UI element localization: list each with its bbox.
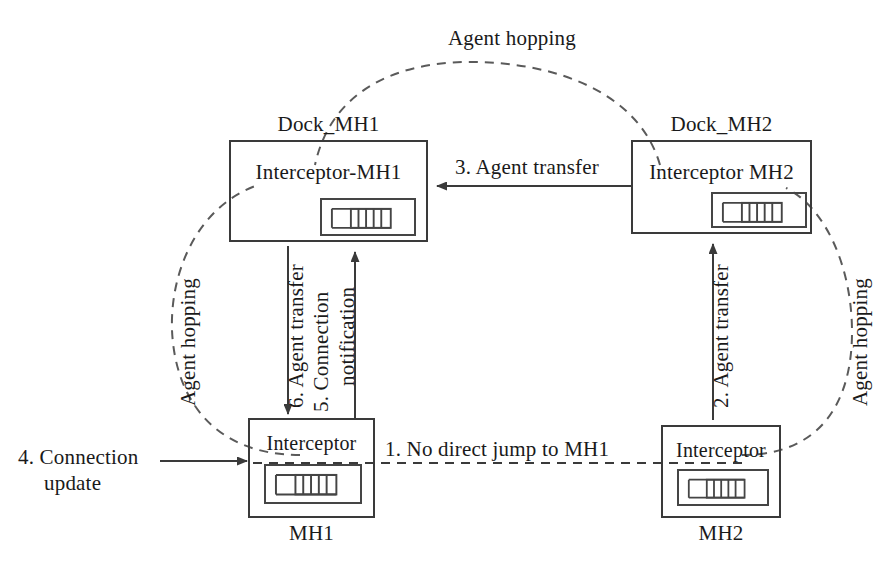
edge-label-step6-agent-transfer: 6. Agent transfer [284,264,309,408]
edge-label-agent-hopping-right: Agent hopping [848,278,873,406]
edge-label-no-direct-jump: 1. No direct jump to MH1 [385,437,609,462]
node-dock-mh1[interactable]: Interceptor-MH1 [229,140,428,242]
edge-label-step4-connection-update: 4. Connection update [18,444,168,497]
edge-label-step5-line1: 5. Connection [309,287,335,412]
agent-stack-icon [264,464,362,504]
node-mh2-caption: MH2 [661,521,781,546]
edge-label-step5-connection-notification: 5. Connection notification [309,287,360,412]
node-dock-mh1-inner-label: Interceptor-MH1 [231,160,426,185]
edge-label-agent-hopping-top: Agent hopping [448,26,576,51]
edge-label-step5-line2: notification [335,287,361,386]
agent-stack-glyph [330,206,406,231]
agent-hopping-diagram: Interceptor-MH1 Dock_MH1 Interceptor MH2… [0,0,894,572]
edge-label-step3-agent-transfer: 3. Agent transfer [455,155,599,180]
node-mh1-caption: MH1 [248,521,375,546]
node-mh1-inner-label: Interceptor [250,432,373,455]
node-mh2[interactable]: Interceptor [661,425,781,518]
node-dock-mh1-caption: Dock_MH1 [229,112,428,137]
agent-stack-glyph [687,477,759,500]
agent-stack-icon [711,192,807,228]
agent-stack-glyph [721,200,797,225]
node-dock-mh2[interactable]: Interceptor MH2 [631,140,812,234]
edge-label-step4-line1: 4. Connection [18,445,138,469]
node-dock-mh2-caption: Dock_MH2 [631,112,812,137]
agent-stack-icon [677,469,769,506]
edge-label-step4-line2: update [44,470,168,496]
node-mh2-inner-label: Interceptor [663,439,779,462]
node-mh1[interactable]: Interceptor [248,418,375,518]
agent-stack-icon [320,198,416,236]
edge-label-agent-hopping-left: Agent hopping [176,278,201,406]
agent-stack-glyph [274,472,352,497]
edge-label-step2-agent-transfer: 2. Agent transfer [709,264,734,408]
node-dock-mh2-inner-label: Interceptor MH2 [633,160,810,185]
